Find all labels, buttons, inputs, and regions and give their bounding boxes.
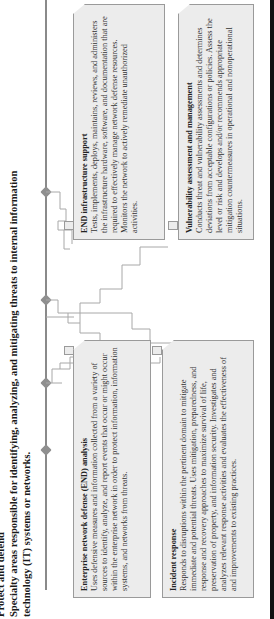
card-incident-response: Incident response Responds to disruption… xyxy=(162,340,254,598)
page-edge-bar xyxy=(270,0,274,619)
connector-tab-vulnerability xyxy=(168,221,178,230)
card-title: END infrastructure support xyxy=(80,11,90,233)
connector-tab-end-analysis xyxy=(64,346,74,355)
card-vulnerability-assessment: Vulnerability assessment and management … xyxy=(178,4,254,240)
card-description: Tests, implements, deploys, maintains, r… xyxy=(90,11,140,233)
card-title: Enterprise network defense (END) analysi… xyxy=(80,347,90,591)
diagram-canvas: Protect and defend Specialty areas respo… xyxy=(0,0,274,619)
card-description: Responds to disruptions within the perti… xyxy=(179,347,239,591)
card-end-analysis: Enterprise network defense (END) analysi… xyxy=(73,340,151,598)
card-end-infrastructure-support: END infrastructure support Tests, implem… xyxy=(73,4,165,240)
connector-tab-end-infra xyxy=(64,221,74,230)
card-title: Vulnerability assessment and management xyxy=(185,11,195,233)
connector-tab-incident-response xyxy=(152,346,162,355)
card-description: Conducts threat and vulnerability assess… xyxy=(195,11,245,233)
card-title: Incident response xyxy=(169,347,179,591)
card-description: Uses defensive measures and information … xyxy=(90,347,130,591)
